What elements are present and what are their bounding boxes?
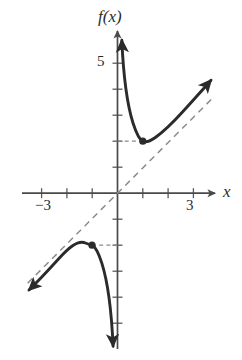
function-plot [0,0,242,360]
local-maximum-point [88,242,95,249]
curve-left-branch [29,242,113,346]
graph-figure: f(x) x −3 3 5 [0,0,242,360]
local-minimum-point [139,138,146,145]
x-axis-label: x [223,183,231,200]
y-tick-label-5: 5 [97,54,105,69]
x-tick-label-3: 3 [186,198,194,213]
slant-asymptote [28,98,213,283]
x-tick-label-negative-3: −3 [35,198,51,213]
curve-right-branch [122,40,211,142]
y-axis-label: f(x) [98,8,122,25]
